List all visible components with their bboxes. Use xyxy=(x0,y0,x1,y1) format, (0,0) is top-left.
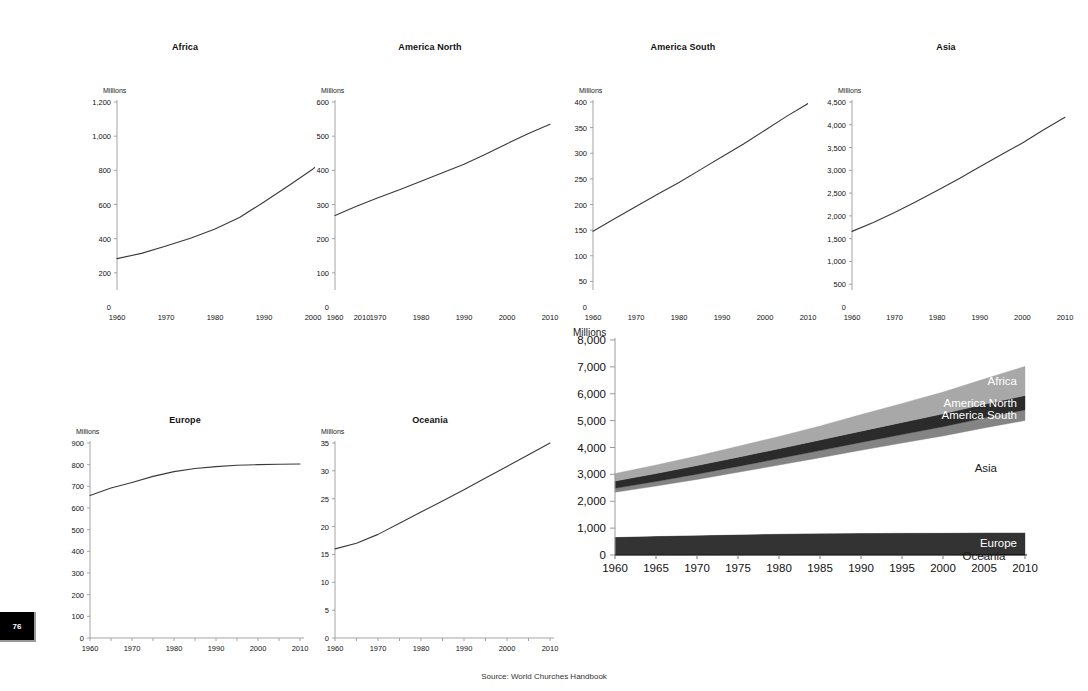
x-axis-tick-label: 1960 xyxy=(327,313,344,322)
y-axis-tick-label: 0 xyxy=(55,303,111,312)
source-note: Source: World Churches Handbook xyxy=(0,672,1088,681)
x-axis-tick-label: 2000 xyxy=(499,313,516,322)
x-axis-tick-label: 2000 xyxy=(305,313,322,322)
x-axis-tick-label: 2000 xyxy=(499,644,516,653)
data-line-asia xyxy=(852,117,1065,231)
chart-canvas xyxy=(305,42,555,290)
chart-panel-stacked-continents: Millions01,0002,0003,0004,0005,0006,0007… xyxy=(560,320,1080,645)
x-axis-tick-label: 2010 xyxy=(542,313,559,322)
chart-canvas xyxy=(560,320,1080,645)
x-axis-tick-label: 2010 xyxy=(542,644,559,653)
chart-canvas xyxy=(55,415,315,645)
data-line-europe xyxy=(90,464,300,495)
page-number-label: 76 xyxy=(13,622,22,631)
data-line-africa xyxy=(117,122,315,259)
x-axis-tick-label: 1990 xyxy=(456,313,473,322)
chart-canvas xyxy=(812,42,1080,290)
chart-panel-asia: AsiaMillions05001,0001,5002,0002,5003,00… xyxy=(812,42,1080,290)
x-axis-tick-label: 2010 xyxy=(354,313,371,322)
x-axis-tick-label: 1960 xyxy=(109,313,126,322)
y-axis-tick-label: 0 xyxy=(558,303,587,312)
chart-canvas xyxy=(558,42,808,290)
x-axis-tick-label: 1990 xyxy=(256,313,273,322)
area-label-america-north: America North xyxy=(944,397,1018,409)
area-label-europe: Europe xyxy=(980,537,1017,549)
area-label-oceania: Oceania xyxy=(963,550,1006,562)
x-axis-tick-label: 1970 xyxy=(158,313,175,322)
x-axis-tick-label: 1970 xyxy=(370,644,387,653)
area-label-america-south: America South xyxy=(942,409,1017,421)
x-axis-tick-label: 1960 xyxy=(82,644,99,653)
x-axis-tick-label: 1980 xyxy=(413,644,430,653)
x-axis-tick-label: 1980 xyxy=(207,313,224,322)
x-axis-tick-label: 1990 xyxy=(208,644,225,653)
x-axis-tick-label: 1980 xyxy=(413,313,430,322)
chart-panel-africa: AfricaMillions02004006008001,0001,200196… xyxy=(55,42,315,290)
chart-canvas xyxy=(55,42,315,290)
area-label-asia: Asia xyxy=(975,462,997,474)
y-axis-tick-label: 0 xyxy=(812,303,846,312)
data-line-america-north xyxy=(335,124,550,215)
chart-canvas xyxy=(305,415,555,645)
chart-panel-oceania: OceaniaMillions0510152025303519601970198… xyxy=(305,415,555,645)
data-line-oceania xyxy=(335,443,550,549)
x-axis-tick-label: 1990 xyxy=(456,644,473,653)
data-line-america-south xyxy=(593,104,808,232)
x-axis-tick-label: 1970 xyxy=(370,313,387,322)
area-label-africa: Africa xyxy=(988,375,1017,387)
x-axis-tick-label: 2000 xyxy=(250,644,267,653)
x-axis-tick-label: 2010 xyxy=(292,644,309,653)
x-axis-tick-label: 1970 xyxy=(124,644,141,653)
chart-panel-europe: EuropeMillions01002003004005006007008009… xyxy=(55,415,315,645)
y-axis-tick-label: 0 xyxy=(305,303,329,312)
chart-panel-america-south: America SouthMillions0501001502002503003… xyxy=(558,42,808,290)
x-axis-tick-label: 1980 xyxy=(166,644,183,653)
chart-panel-america-north: America NorthMillions0100200300400500600… xyxy=(305,42,555,290)
page-number-tab: 76 xyxy=(0,612,36,642)
x-axis-tick-label: 1960 xyxy=(327,644,344,653)
